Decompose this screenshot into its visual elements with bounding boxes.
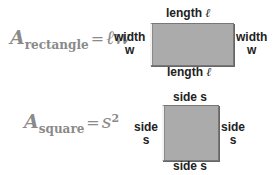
rectangle-subscript: rectangle: [25, 38, 89, 52]
square-left-label: side s: [134, 121, 158, 147]
w-symbol: w: [236, 44, 267, 57]
w-symbol: w: [114, 44, 145, 57]
square-right-label: side s: [221, 121, 245, 147]
ell-symbol: ℓ: [205, 6, 210, 20]
equals-sign: =: [91, 29, 104, 48]
rectangle-bottom-label: length ℓ: [167, 66, 211, 79]
length-text: length: [166, 6, 202, 20]
rectangle-top-label: length ℓ: [166, 7, 210, 20]
square-shape: [162, 105, 219, 161]
square-top-label: side s: [173, 91, 207, 104]
equals-sign: =: [86, 113, 99, 132]
rectangle-shape: [150, 23, 234, 66]
ell-symbol: ℓ: [206, 65, 211, 79]
rectangle-area-formula: Arectangle=ℓw: [10, 26, 130, 49]
area-symbol: A: [24, 110, 39, 132]
area-symbol: A: [10, 26, 25, 48]
length-text: length: [167, 65, 203, 79]
rectangle-right-label: width w: [236, 31, 267, 57]
square-subscript: square: [39, 122, 85, 136]
square-area-formula: Asquare=s2: [24, 110, 119, 132]
s-symbol: s: [134, 134, 158, 147]
s-symbol: s: [221, 134, 245, 147]
exponent: 2: [112, 112, 120, 125]
square-bottom-label: side s: [173, 160, 207, 173]
square-rhs: s: [102, 110, 112, 132]
rectangle-left-label: width w: [114, 31, 145, 57]
